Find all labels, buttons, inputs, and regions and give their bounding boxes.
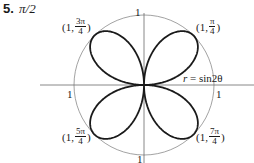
axis-label-right: 1	[216, 88, 222, 100]
equation-rhs: sin2θ	[199, 72, 223, 84]
point-label-pi-over-4: (1, π4 )	[196, 17, 220, 36]
point-label-5pi-over-4: (1, 5π4 )	[62, 127, 91, 146]
point-label-7pi-over-4: (1, 7π4 )	[196, 127, 225, 146]
axis-label-bottom: 1	[137, 153, 143, 163]
equation-eq: =	[187, 72, 199, 84]
point-label-3pi-over-4: (1, 3π4 )	[62, 17, 91, 36]
axis-label-left: 1	[67, 88, 73, 100]
axis-label-top: 1	[135, 6, 141, 18]
equation-label: r = sin2θ	[183, 72, 223, 84]
